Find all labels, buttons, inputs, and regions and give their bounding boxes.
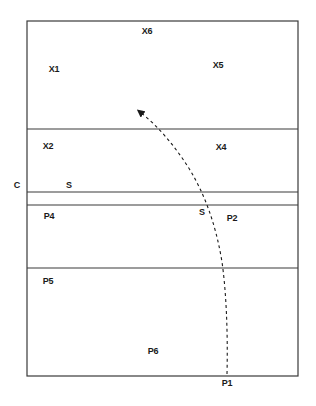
serve-trajectory-arrow bbox=[140, 112, 227, 374]
label-x2: X2 bbox=[43, 141, 54, 151]
label-p5: P5 bbox=[43, 276, 54, 286]
label-c: C bbox=[14, 180, 20, 190]
label-x5: X5 bbox=[213, 60, 224, 70]
label-p2: P2 bbox=[227, 213, 238, 223]
label-p6: P6 bbox=[148, 346, 159, 356]
label-s-right: S bbox=[199, 207, 205, 217]
court-boundary bbox=[27, 21, 298, 376]
label-x1: X1 bbox=[49, 64, 60, 74]
label-x4: X4 bbox=[216, 142, 227, 152]
label-x6: X6 bbox=[142, 26, 153, 36]
label-p4: P4 bbox=[44, 211, 55, 221]
label-p1: P1 bbox=[222, 378, 233, 388]
label-s-left: S bbox=[66, 180, 72, 190]
